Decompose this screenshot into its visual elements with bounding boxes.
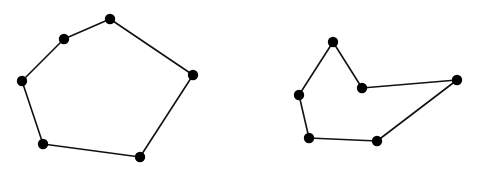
vertex-dot — [59, 34, 69, 44]
vertex-dot — [304, 133, 314, 143]
vertex-dot — [135, 152, 145, 162]
convex-hexagon-edges — [22, 19, 193, 157]
vertex-dot — [105, 14, 115, 24]
vertex-dot — [38, 139, 48, 149]
vertex-dot — [188, 70, 198, 80]
concave-polygon — [294, 37, 462, 146]
vertex-dot — [452, 75, 462, 85]
vertex-dot — [294, 90, 304, 100]
vertex-dot — [357, 83, 367, 93]
convex-polygon — [17, 14, 198, 162]
vertex-dot — [372, 136, 382, 146]
vertex-dot — [328, 37, 338, 47]
concave-hexagon-edges — [299, 42, 457, 141]
vertex-dot — [17, 76, 27, 86]
polygon-diagram — [0, 0, 479, 172]
